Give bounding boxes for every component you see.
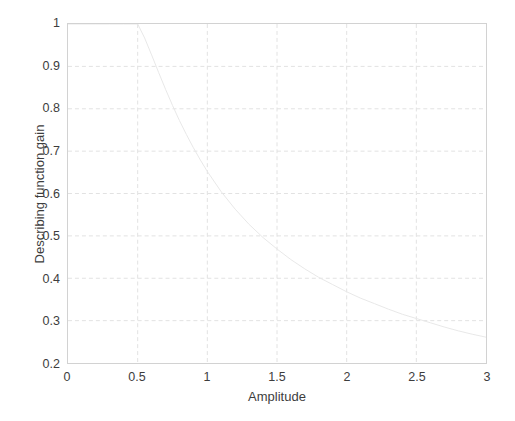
series-path <box>68 24 486 337</box>
y-tick-label: 0.9 <box>18 59 60 72</box>
x-tick-label: 0.5 <box>128 371 145 384</box>
y-tick-label: 0.2 <box>18 358 60 371</box>
x-tick-label: 3 <box>484 371 491 384</box>
figure-canvas: Describing function gain 0.20.30.40.50.6… <box>0 0 515 421</box>
x-tick-label: 2.5 <box>408 371 425 384</box>
data-series-line <box>68 24 486 363</box>
y-tick-label: 0.3 <box>18 315 60 328</box>
y-tick-label: 0.6 <box>18 187 60 200</box>
x-tick-label: 0 <box>64 371 71 384</box>
x-axis-label: Amplitude <box>67 389 487 404</box>
y-tick-label: 0.5 <box>18 230 60 243</box>
y-tick-label: 0.4 <box>18 273 60 286</box>
y-tick-label: 1 <box>18 17 60 30</box>
plot-area <box>67 23 487 364</box>
y-tick-label: 0.7 <box>18 145 60 158</box>
x-tick-label: 1.5 <box>268 371 285 384</box>
x-tick-label: 2 <box>344 371 351 384</box>
y-tick-label: 0.8 <box>18 102 60 115</box>
x-tick-label: 1 <box>204 371 211 384</box>
